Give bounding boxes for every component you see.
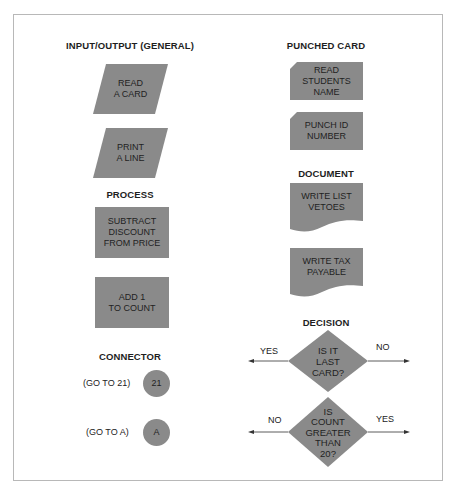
decision-heading: DECISION [303,317,350,328]
document-shape-write-vetoes: WRITE LISTVETOES [290,183,363,233]
io-shape-label: READA CARD [93,64,168,114]
arrow-right-icon [404,430,410,434]
connector-caption: (GO TO A) [86,427,129,437]
connector-caption: (GO TO 21) [83,378,130,388]
document-shape-write-tax: WRITE TAXPAYABLE [290,248,363,298]
io-shape-print-line: PRINTA LINE [93,128,168,178]
punched-card-shape-punch-id: PUNCH IDNUMBER [290,112,363,150]
process-shape-subtract-discount: SUBTRACTDISCOUNTFROM PRICE [95,207,169,258]
connector-symbol: 21 [143,370,170,397]
process-shape-label: ADD 1TO COUNT [95,277,169,328]
punched-card-heading: PUNCHED CARD [287,40,365,51]
punched-card-shape-read-name: READSTUDENTSNAME [290,62,363,100]
decision-label: ISCOUNTGREATERTHAN20? [295,406,361,460]
process-shape-label: SUBTRACTDISCOUNTFROM PRICE [95,207,169,258]
decision-left-branch: NO [268,415,282,425]
process-heading: PROCESS [106,189,153,200]
process-shape-add-count: ADD 1TO COUNT [95,277,169,328]
io-shape-label: PRINTA LINE [93,128,168,178]
decision-left-branch: YES [260,346,278,356]
arrow-right-icon [404,359,410,363]
connector-circle-icon: A [143,419,170,446]
io-shape-read-card: READA CARD [93,64,168,114]
connector-heading: CONNECTOR [99,351,161,362]
connector-circle-icon: 21 [143,370,170,397]
arrow-left-icon [248,430,254,434]
punched-card-label: READSTUDENTSNAME [290,62,363,100]
document-heading: DOCUMENT [298,168,354,179]
io-heading: INPUT/OUTPUT (GENERAL) [66,40,194,51]
connector-symbol: A [143,419,170,446]
decision-right-branch: NO [376,342,390,352]
document-label: WRITE LISTVETOES [290,185,363,219]
punched-card-label: PUNCH IDNUMBER [290,112,363,150]
decision-right-branch: YES [376,414,394,424]
document-label: WRITE TAXPAYABLE [290,250,363,284]
arrow-left-icon [248,359,254,363]
decision-label: IS ITLASTCARD? [300,340,356,382]
